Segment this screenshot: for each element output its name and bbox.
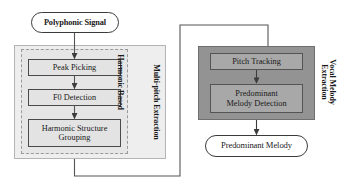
process-peak-picking[interactable]: Peak Picking (28, 59, 121, 76)
group-label-vocal-melody-extraction-line1: Vocal Melody (328, 59, 336, 104)
process-harmonic-structure-grouping-label-line1: Harmonic Structure (42, 124, 108, 133)
diagram-canvas: Polyphonic Signal Peak Picking F0 Detect… (0, 0, 356, 190)
group-label-vocal-melody-extraction: Vocal Melody Extraction (318, 54, 338, 110)
process-pitch-tracking[interactable]: Pitch Tracking (210, 53, 303, 70)
process-pitch-tracking-label: Pitch Tracking (232, 57, 281, 66)
process-harmonic-structure-grouping-label-line2: Grouping (59, 133, 91, 142)
process-f0-detection[interactable]: F0 Detection (28, 89, 121, 106)
process-harmonic-structure-grouping[interactable]: Harmonic Structure Grouping (28, 119, 121, 147)
process-peak-picking-label: Peak Picking (53, 63, 97, 72)
process-predominant-melody-detection-label-line1: Predominant (235, 89, 277, 98)
process-predominant-melody-detection[interactable]: Predominant Melody Detection (210, 84, 303, 113)
group-label-multi-pitch-extraction: Multi-pitch Extraction (150, 61, 162, 143)
terminal-polyphonic-signal[interactable]: Polyphonic Signal (31, 12, 119, 33)
process-f0-detection-label: F0 Detection (53, 93, 96, 102)
terminal-polyphonic-signal-label: Polyphonic Signal (44, 18, 106, 27)
group-label-multi-pitch-extraction-text: Multi-pitch Extraction (152, 64, 160, 139)
group-label-vocal-melody-extraction-line2: Extraction (320, 64, 328, 99)
terminal-predominant-melody-label: Predominant Melody (221, 141, 292, 151)
group-label-harmonic-based: Harmonic Based (114, 56, 126, 108)
group-label-harmonic-based-text: Harmonic Based (116, 54, 124, 110)
terminal-predominant-melody[interactable]: Predominant Melody (205, 135, 308, 157)
process-predominant-melody-detection-label-line2: Melody Detection (226, 99, 286, 108)
